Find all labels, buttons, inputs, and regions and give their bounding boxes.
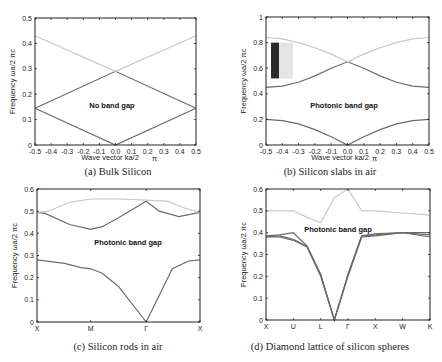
plot-frame [266,189,430,320]
y-tick-label: 0 [259,317,263,324]
y-tick-label: 0.4 [24,230,34,237]
x-tick-label: W [399,323,406,330]
plot-frame [37,189,200,322]
inset-light-bar [279,43,293,79]
panel-caption: (c) Silicon rods in air [73,341,163,353]
x-tick-label: X [35,325,40,332]
plot-frame [35,18,196,145]
x-tick-label: M [88,325,94,332]
y-tick-label: 0.3 [253,251,263,258]
y-tick-label: 0.6 [24,186,34,193]
chart-panel-3: XMΓX00.10.20.30.40.50.6Frequency ωa/2 πc… [10,186,203,354]
x-axis-label-pi: π [152,154,157,163]
x-tick-label: 0.4 [175,148,185,155]
x-tick-label: K [428,323,433,330]
x-tick-label: -0.3 [61,148,73,155]
x-tick-label: -0.3 [293,148,305,155]
y-tick-label: 0 [259,142,263,149]
chart-panel-2: -0.5-0.4-0.3-0.2-0.10.00.10.20.30.40.500… [239,14,434,179]
x-tick-label: L [319,323,323,330]
band-line-band3 [37,199,200,212]
band-line-band3 [35,36,196,72]
x-axis-label: Wave vector ka/2 [311,153,369,162]
x-axis-label-pi: π [372,154,377,163]
y-tick-label: 0 [28,142,32,149]
y-tick-label: 0.5 [253,207,263,214]
y-tick-label: 0.4 [22,40,32,47]
band-line-band1 [37,260,200,322]
x-tick-label: 0.4 [408,148,418,155]
x-tick-label: 0.3 [392,148,402,155]
x-tick-label: X [264,323,269,330]
band-gap-annotation: No band gap [89,101,135,110]
y-tick-label: 0.2 [24,274,34,281]
x-tick-label: 0.5 [424,148,434,155]
y-axis-label: Frequency ωa/2 πc [8,49,17,114]
x-axis-label: Wave vector ka/2 [81,153,139,162]
chart-panel-4: XULΓXWK00.10.20.30.40.50.6Frequency ωa/2… [239,186,433,354]
panel-caption: (b) Silicon slabs in air [284,166,377,178]
y-axis-label: Frequency ωa/2 πc [239,48,248,113]
inset-dark-bar [271,43,279,79]
y-tick-label: 0 [30,319,34,326]
x-tick-label: 0.3 [159,148,169,155]
y-tick-label: 0.5 [22,15,32,22]
y-axis-label: Frequency ωa/2 πc [10,223,19,288]
x-tick-label: X [373,323,378,330]
x-tick-label: -0.4 [45,148,57,155]
y-tick-label: 0.3 [24,252,34,259]
y-tick-label: 0.1 [253,295,263,302]
band-gap-annotation: Photonic band gap [304,225,372,234]
x-tick-label: U [291,323,296,330]
chart-panel-1: -0.5-0.4-0.3-0.2-0.10.00.10.20.30.40.500… [8,15,201,179]
x-tick-label: X [198,325,203,332]
y-axis-label: Frequency ωa/2 πc [239,222,248,287]
y-tick-label: 0.8 [253,39,263,46]
y-tick-label: 0.3 [22,65,32,72]
y-tick-label: 1 [259,14,263,21]
panel-caption: (a) Bulk Silicon [84,166,152,178]
y-tick-label: 0.4 [253,229,263,236]
x-tick-label: 0.5 [191,148,201,155]
y-tick-label: 0.1 [22,116,32,123]
plot-frame [266,17,429,145]
y-tick-label: 0.1 [24,296,34,303]
x-tick-label: -0.5 [260,148,272,155]
band-line-band1 [266,119,429,145]
figure-canvas: -0.5-0.4-0.3-0.2-0.10.00.10.20.30.40.500… [0,0,442,362]
y-tick-label: 0.2 [253,116,263,123]
x-tick-label: -0.5 [29,148,41,155]
y-tick-label: 0.5 [24,208,34,215]
y-tick-label: 0.2 [253,273,263,280]
panel-caption: (d) Diamond lattice of silicon spheres [251,341,409,353]
band-gap-annotation: Photonic band gap [94,238,162,247]
x-tick-label: Γ [346,323,350,330]
band-line-band2 [266,233,430,320]
band-line-band1 [35,108,196,145]
y-tick-label: 0.6 [253,65,263,72]
y-tick-label: 0.2 [22,91,32,98]
y-tick-label: 0.6 [253,186,263,193]
x-tick-label: -0.4 [276,148,288,155]
band-gap-annotation: Photonic band gap [310,101,378,110]
y-tick-label: 0.4 [253,90,263,97]
band-line-band4 [266,189,430,223]
x-tick-label: Γ [144,325,148,332]
